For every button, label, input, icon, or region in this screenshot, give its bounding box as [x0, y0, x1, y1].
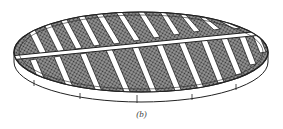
- support-plate-figure: (b): [0, 0, 283, 129]
- figure-caption: (b): [0, 109, 283, 119]
